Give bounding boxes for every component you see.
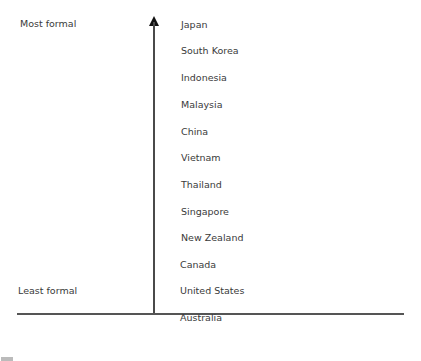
country-item: Thailand (181, 179, 222, 191)
country-item: Indonesia (181, 72, 227, 84)
least-formal-label: Least formal (18, 285, 77, 297)
country-item: Canada (180, 259, 216, 271)
country-item: Singapore (181, 206, 229, 218)
country-item: Malaysia (181, 99, 223, 111)
country-item: Vietnam (181, 152, 221, 164)
most-formal-label: Most formal (20, 18, 76, 30)
country-item: Australia (180, 312, 222, 324)
country-item: United States (180, 285, 244, 297)
corner-mark (1, 357, 13, 361)
country-item: South Korea (181, 45, 239, 57)
country-item: China (181, 126, 208, 138)
country-item: Japan (181, 19, 208, 31)
vertical-axis (153, 22, 155, 314)
country-item: New Zealand (181, 232, 243, 244)
